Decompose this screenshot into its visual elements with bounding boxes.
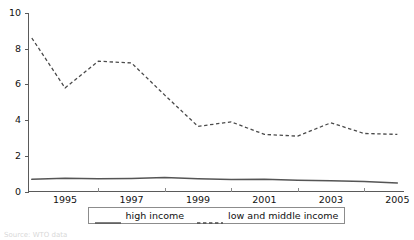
y-tick-label: 8: [3, 44, 21, 54]
x-tick-label: 2005: [377, 195, 414, 205]
legend-solid-line-icon: [95, 212, 121, 220]
series-line-high-income: [32, 178, 398, 183]
y-tick-label: 0: [3, 187, 21, 197]
series-group: [32, 38, 398, 183]
y-tick-label: 2: [3, 151, 21, 161]
legend-dashed-line-icon: [197, 212, 223, 220]
y-tick-label: 4: [3, 115, 21, 125]
x-tick-label: 2003: [311, 195, 351, 205]
chart-legend: high incomelow and middle income: [88, 207, 345, 224]
legend-label: low and middle income: [228, 211, 338, 221]
legend-entry: high income: [95, 211, 185, 221]
legend-label: high income: [126, 211, 185, 221]
y-tick-label: 10: [3, 8, 21, 18]
source-note: Source: WTO data: [4, 232, 67, 239]
line-chart: 0246810 199519971999200120032005 high in…: [0, 0, 414, 240]
x-tick-label: 2001: [244, 195, 284, 205]
x-tick-label: 1997: [112, 195, 152, 205]
series-line-low-and-middle-income: [32, 38, 398, 136]
y-axis: [25, 13, 29, 193]
y-tick-label: 6: [3, 79, 21, 89]
legend-entry: low and middle income: [197, 211, 338, 221]
x-tick-label: 1999: [178, 195, 218, 205]
x-axis: [29, 188, 405, 192]
x-tick-label: 1995: [45, 195, 85, 205]
